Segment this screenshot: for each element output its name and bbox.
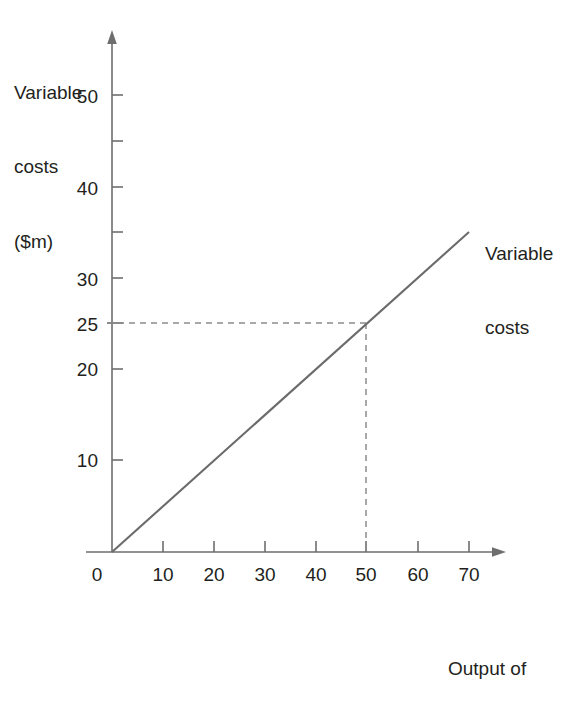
x-axis-arrowhead	[492, 547, 506, 557]
y-tick-label-25: 25	[60, 313, 98, 338]
x-tick-label-70: 70	[455, 563, 483, 588]
y-tick-label-10: 10	[60, 449, 98, 474]
series-label-variable-costs: Variable costs	[485, 193, 553, 391]
y-tick-label-50: 50	[60, 85, 98, 110]
guide-lines	[107, 323, 366, 552]
x-axis	[86, 547, 506, 557]
y-tick-label-20: 20	[60, 358, 98, 383]
y-axis-title-line-3: ($m)	[14, 230, 82, 255]
series-label-line-1: Variable	[485, 242, 553, 267]
x-tick-label-10: 10	[149, 563, 177, 588]
y-axis	[107, 30, 117, 552]
y-axis-title: Variable costs ($m)	[14, 32, 82, 304]
chart-figure: Variable costs ($m) 50 40 30 25 20 10 0 …	[0, 0, 584, 722]
y-axis-arrowhead	[107, 30, 117, 44]
y-tick-label-40: 40	[60, 177, 98, 202]
x-tick-label-0: 0	[83, 563, 111, 588]
series-label-line-2: costs	[485, 316, 553, 341]
x-tick-label-50: 50	[352, 563, 380, 588]
variable-costs-line	[112, 232, 469, 552]
x-tick-label-40: 40	[302, 563, 330, 588]
y-axis-ticks	[107, 95, 123, 460]
y-tick-label-30: 30	[60, 268, 98, 293]
x-axis-caption: Output of computers per annum (000s)	[448, 608, 539, 722]
x-axis-caption-line-1: Output of	[448, 657, 539, 682]
x-tick-label-30: 30	[251, 563, 279, 588]
x-tick-label-60: 60	[404, 563, 432, 588]
x-axis-ticks	[163, 541, 469, 552]
x-tick-label-20: 20	[200, 563, 228, 588]
